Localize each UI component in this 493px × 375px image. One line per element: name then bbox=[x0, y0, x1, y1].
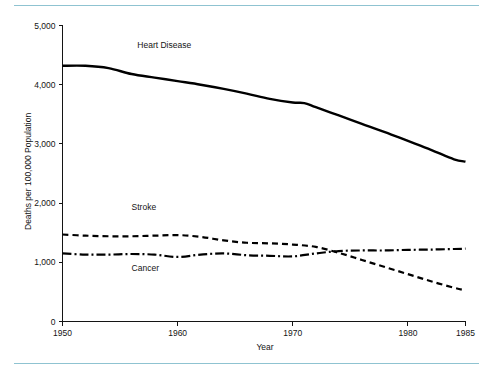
y-axis-ticks bbox=[59, 26, 63, 322]
series-label-stroke: Stroke bbox=[132, 202, 157, 212]
x-tick-label: 1980 bbox=[398, 328, 417, 338]
y-tick-label: 2,000 bbox=[34, 198, 56, 208]
series-label-heart-disease: Heart Disease bbox=[137, 40, 191, 50]
y-tick-label: 4,000 bbox=[34, 80, 56, 90]
series-line-cancer bbox=[63, 249, 466, 257]
x-axis-tick-labels: 19501960197019801985 bbox=[53, 328, 475, 338]
series-label-cancer: Cancer bbox=[132, 263, 160, 273]
series-group bbox=[63, 66, 466, 291]
x-axis-ticks bbox=[63, 322, 466, 326]
series-line-heart-disease bbox=[63, 66, 466, 162]
y-tick-label: 0 bbox=[51, 317, 56, 327]
x-tick-label: 1950 bbox=[53, 328, 72, 338]
series-line-stroke bbox=[63, 234, 466, 290]
x-tick-label: 1960 bbox=[168, 328, 187, 338]
y-tick-label: 1,000 bbox=[34, 257, 56, 267]
y-axis-title: Deaths per 100,000 Population bbox=[23, 113, 33, 230]
axis-lines bbox=[63, 26, 466, 322]
x-tick-label: 1970 bbox=[283, 328, 302, 338]
figure-canvas: 01,0002,0003,0004,0005,000 1950196019701… bbox=[0, 0, 493, 375]
x-tick-label: 1985 bbox=[456, 328, 475, 338]
line-chart: 01,0002,0003,0004,0005,000 1950196019701… bbox=[0, 0, 493, 375]
y-axis-tick-labels: 01,0002,0003,0004,0005,000 bbox=[34, 21, 56, 327]
x-axis-title: Year bbox=[256, 342, 273, 352]
y-tick-label: 3,000 bbox=[34, 139, 56, 149]
y-tick-label: 5,000 bbox=[34, 21, 56, 31]
